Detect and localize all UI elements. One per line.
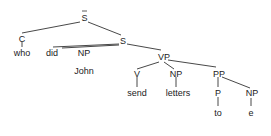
edge-vp-v [137,62,159,69]
edge-s-vp [127,44,161,50]
edge-vp-pp [168,60,216,67]
node-p: P [215,88,221,98]
node-c: C [19,34,26,44]
node-letters: letters [166,88,191,98]
node-e: e [248,108,253,118]
syntax-tree: S C who S did NP John VP V send NP lette… [0,0,271,136]
edge-vp-np [164,62,174,69]
node-did: did [46,48,58,58]
node-np-subject: NP [78,48,91,58]
node-s: S [120,36,126,46]
node-send: send [127,88,147,98]
edge-pp-np [222,77,250,88]
node-v: V [134,69,140,79]
node-to: to [214,108,222,118]
node-sbar: S [81,13,87,23]
edge-sbar-s [88,22,121,35]
tree-labels: S C who S did NP John VP V send NP lette… [13,13,259,118]
node-pp: PP [213,69,225,79]
node-vp: VP [158,52,170,62]
node-john: John [74,66,94,76]
node-np-pp: NP [246,88,259,98]
edge-sbar-c [22,22,80,33]
node-who: who [13,48,31,58]
node-np-object: NP [170,69,183,79]
